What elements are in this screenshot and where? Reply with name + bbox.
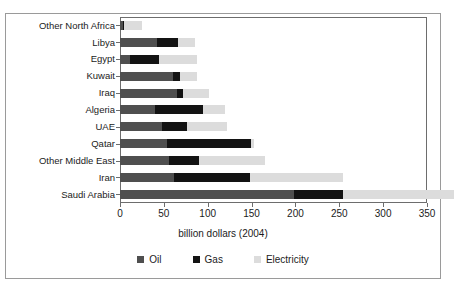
bar-segment-electricity [180, 72, 198, 81]
x-axis-tick-label: 200 [287, 208, 304, 219]
bar-segment-gas [155, 105, 203, 114]
bar-segment-gas [162, 122, 187, 131]
bar-segment-gas [294, 190, 343, 199]
bar-segment-gas [173, 72, 180, 81]
bar-segment-electricity [183, 89, 209, 98]
stacked-bar [120, 89, 209, 98]
y-axis-tick [116, 194, 120, 195]
y-axis-tick [116, 25, 120, 26]
category-label: Other Middle East [39, 156, 115, 166]
legend-item-gas: Gas [193, 254, 223, 265]
stacked-bar [120, 21, 142, 30]
bar-row: UAE [120, 118, 427, 135]
bar-segment-electricity [343, 190, 454, 199]
category-label: UAE [95, 122, 115, 132]
x-axis-tick-label: 100 [199, 208, 216, 219]
bar-segment-gas [169, 156, 199, 165]
bar-segment-electricity [159, 55, 197, 64]
stacked-bar [120, 55, 197, 64]
stacked-bar [120, 105, 225, 114]
legend-label: Gas [205, 254, 223, 265]
x-axis: 050100150200250300350 [120, 203, 427, 227]
bar-segment-gas [130, 55, 160, 64]
bar-segment-gas [167, 139, 250, 148]
bar-segment-gas [174, 173, 249, 182]
x-axis-label: billion dollars (2004) [0, 228, 446, 239]
x-axis-tick-label: 50 [158, 208, 169, 219]
bar-row: Libya [120, 34, 427, 51]
stacked-bar [120, 173, 343, 182]
stacked-bar [120, 38, 195, 47]
x-axis-tick [295, 203, 296, 207]
bar-segment-electricity [124, 21, 142, 30]
legend-swatch-icon [137, 256, 144, 263]
category-label: Kuwait [86, 71, 115, 81]
category-label: Libya [92, 38, 115, 48]
x-axis-tick [164, 203, 165, 207]
bar-segment-electricity [178, 38, 195, 47]
legend-swatch-icon [193, 256, 200, 263]
x-axis-tick-label: 250 [331, 208, 348, 219]
y-axis-tick [116, 76, 120, 77]
y-axis-tick [116, 93, 120, 94]
category-label: Algeria [85, 105, 115, 115]
x-axis-tick [427, 203, 428, 207]
category-label: Other North Africa [39, 21, 115, 31]
stacked-bar [120, 72, 197, 81]
stacked-bar [120, 190, 454, 199]
bar-row: Other Middle East [120, 152, 427, 169]
bar-segment-oil [120, 139, 167, 148]
legend-item-electricity: Electricity [254, 254, 309, 265]
bar-segment-electricity [203, 105, 225, 114]
stacked-bar [120, 122, 227, 131]
y-axis-tick [116, 59, 120, 60]
bar-row: Algeria [120, 101, 427, 118]
y-axis-tick [116, 177, 120, 178]
bar-segment-electricity [251, 139, 255, 148]
bar-segment-gas [157, 38, 178, 47]
bar-row: Iran [120, 169, 427, 186]
bar-segment-oil [120, 89, 177, 98]
x-axis-tick-label: 0 [117, 208, 123, 219]
legend-swatch-icon [254, 256, 261, 263]
bar-row: Qatar [120, 135, 427, 152]
bar-segment-electricity [250, 173, 343, 182]
y-axis-tick [116, 110, 120, 111]
bar-segment-oil [120, 173, 174, 182]
bar-segment-oil [120, 72, 173, 81]
bar-segment-oil [120, 38, 157, 47]
clipped-header-text [0, 0, 446, 1]
stacked-bar [120, 156, 265, 165]
x-axis-tick-label: 300 [375, 208, 392, 219]
bar-row: Egypt [120, 51, 427, 68]
bar-row: Iraq [120, 85, 427, 102]
bar-segment-oil [120, 190, 294, 199]
stacked-bar [120, 139, 254, 148]
x-axis-tick [339, 203, 340, 207]
x-axis-tick-label: 350 [419, 208, 436, 219]
y-axis-tick [116, 127, 120, 128]
x-axis-tick [208, 203, 209, 207]
category-label: Iraq [99, 88, 115, 98]
legend-item-oil: Oil [137, 254, 161, 265]
bar-rows: Other North AfricaLibyaEgyptKuwaitIraqAl… [120, 17, 427, 203]
chart-legend: OilGasElectricity [0, 254, 446, 265]
bar-segment-oil [120, 122, 162, 131]
x-axis-tick [252, 203, 253, 207]
bar-segment-oil [120, 156, 169, 165]
bar-segment-electricity [199, 156, 265, 165]
legend-label: Oil [149, 254, 161, 265]
bar-row: Other North Africa [120, 17, 427, 34]
category-label: Egypt [91, 54, 115, 64]
x-axis-tick [120, 203, 121, 207]
y-axis-tick [116, 161, 120, 162]
bar-segment-oil [120, 105, 155, 114]
bar-segment-electricity [187, 122, 227, 131]
bar-segment-oil [120, 55, 130, 64]
y-axis-tick [116, 144, 120, 145]
category-label: Saudi Arabia [61, 190, 115, 200]
x-axis-tick [383, 203, 384, 207]
legend-label: Electricity [266, 254, 309, 265]
bar-row: Saudi Arabia [120, 186, 427, 203]
